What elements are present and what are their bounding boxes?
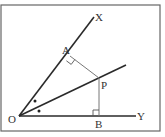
- diagram-canvas: O X Y A P B: [0, 0, 165, 137]
- label-P: P: [101, 79, 107, 91]
- label-A: A: [62, 44, 70, 56]
- label-O: O: [8, 113, 16, 125]
- label-Y: Y: [137, 110, 145, 122]
- label-X: X: [95, 11, 103, 23]
- geometry-diagram: O X Y A P B: [0, 0, 165, 137]
- label-B: B: [95, 118, 102, 130]
- equal-angle-dot-upper: [34, 100, 37, 103]
- equal-angle-dot-lower: [38, 110, 41, 113]
